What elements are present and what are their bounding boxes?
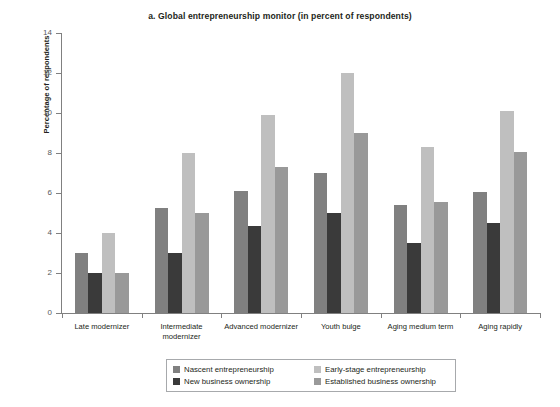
bar [182,153,196,313]
legend-item: Nascent entrepreneurship [173,363,308,375]
y-tick-label: 0 [14,308,52,317]
x-category-label: Advanced modernizer [221,322,301,332]
legend-swatch-icon [314,366,321,373]
y-tick-mark [56,193,61,194]
x-tick-mark [460,313,461,318]
y-tick-mark [56,113,61,114]
bar [407,243,421,313]
legend-swatch-icon [314,378,321,385]
x-tick-mark [301,313,302,318]
y-tick-label: 10 [14,108,52,117]
bar [341,73,355,313]
bar [514,152,528,313]
bar [102,233,116,313]
x-category-label: Youth bulge [301,322,381,332]
bar [314,173,328,313]
bar [195,213,209,313]
x-tick-mark [381,313,382,318]
bar [88,273,102,313]
bar [248,226,262,313]
y-tick-label: 2 [14,268,52,277]
bar [327,213,341,313]
bar [115,273,129,313]
y-tick-label: 4 [14,228,52,237]
y-tick-mark [56,33,61,34]
y-tick-mark [56,313,61,314]
x-tick-mark [62,313,63,318]
legend-item: New business ownership [173,375,308,387]
bar [155,208,169,313]
bar [234,191,248,313]
x-category-label: Intermediate modernizer [142,322,222,342]
bar [275,167,289,313]
legend-label: New business ownership [184,377,270,386]
legend-swatch-icon [173,378,180,385]
bar [473,192,487,313]
bar [434,202,448,313]
bar [168,253,182,313]
legend-label: Established business ownership [325,377,436,386]
x-category-label: Late modernizer [62,322,142,332]
plot-area [62,33,540,313]
bar [261,115,275,313]
y-tick-mark [56,233,61,234]
bar [500,111,514,313]
y-tick-mark [56,273,61,274]
bar [75,253,89,313]
x-tick-mark [221,313,222,318]
y-tick-mark [56,153,61,154]
x-tick-mark [142,313,143,318]
y-tick-mark [56,73,61,74]
bar [421,147,435,313]
legend-label: Nascent entrepreneurship [184,365,274,374]
chart-title: a. Global entrepreneurship monitor (in p… [0,11,560,21]
y-tick-label: 12 [14,68,52,77]
y-tick-label: 14 [14,28,52,37]
legend-item: Early-stage entrepreneurship [314,363,449,375]
bar [487,223,501,313]
chart-legend: Nascent entrepreneurshipEarly-stage entr… [166,359,456,392]
y-tick-label: 6 [14,188,52,197]
bar [394,205,408,313]
x-category-label: Aging rapidly [460,322,540,332]
y-tick-label: 8 [14,148,52,157]
legend-label: Early-stage entrepreneurship [325,365,426,374]
x-tick-mark [540,313,541,318]
legend-swatch-icon [173,366,180,373]
bar [354,133,368,313]
x-category-label: Aging medium term [381,322,461,332]
legend-item: Established business ownership [314,375,449,387]
